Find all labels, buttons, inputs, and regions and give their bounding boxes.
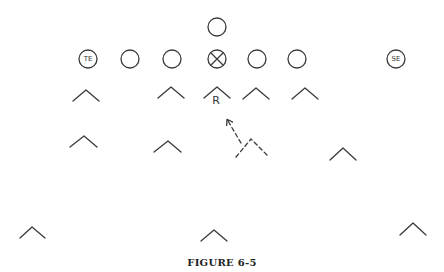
te-label: TE	[83, 55, 93, 63]
defender-chevron	[400, 223, 426, 235]
rg-circle	[248, 50, 266, 68]
player-te: TE	[79, 50, 97, 68]
rover-label: R	[212, 94, 220, 107]
defender-chevron	[201, 230, 227, 241]
defender-chevron	[292, 88, 318, 99]
defender-chevron	[70, 136, 97, 147]
defender-chevron	[330, 148, 356, 160]
dashed-defender	[228, 121, 269, 157]
offensive-back-circle	[208, 18, 226, 36]
defense-second-level	[70, 121, 356, 160]
player-center	[208, 50, 226, 68]
lt-circle	[121, 50, 139, 68]
offensive-line: TE SE	[79, 50, 405, 68]
defender-rover: R	[204, 87, 230, 107]
offense-backfield	[208, 18, 226, 36]
player-se: SE	[387, 50, 405, 68]
defender-chevron	[154, 141, 181, 152]
formation-diagram: TE SE R	[0, 0, 444, 272]
rt-circle	[288, 50, 306, 68]
defender-chevron	[20, 227, 45, 238]
defender-chevron	[243, 88, 269, 99]
se-label: SE	[392, 55, 401, 63]
figure-caption: FIGURE 6-5	[187, 257, 257, 268]
defense-first-level: R	[73, 87, 318, 107]
defense-deep	[20, 223, 426, 241]
defender-chevron	[158, 87, 184, 98]
movement-arrow-icon	[228, 121, 241, 143]
defender-chevron	[73, 90, 99, 101]
lg-circle	[163, 50, 181, 68]
